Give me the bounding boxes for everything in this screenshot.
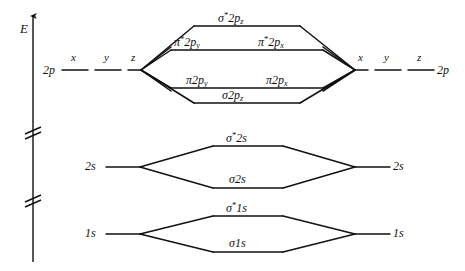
shell-text: 1s (235, 236, 246, 250)
shell-text: 2p (184, 35, 196, 49)
ao-2py-left-label: y (104, 52, 109, 63)
ao-2pz-right-label: z (417, 52, 421, 63)
mo-label-pi-star-2py: π*2py (174, 35, 200, 50)
mo-label-sigma-1s: σ1s (229, 237, 246, 249)
mo-label-sigma-2pz: σ2pz (222, 89, 243, 103)
ao-2p-right-label: 2p (437, 64, 449, 76)
shell-text: 2p (268, 35, 280, 49)
sub-glyph: z (240, 94, 243, 103)
correlation-1s (140, 216, 355, 252)
ao-2pz-left-label: z (131, 52, 135, 63)
mo-label-sigma-star-2pz: σ*2pz (218, 11, 243, 26)
correlation-2s (140, 146, 355, 188)
sub-glyph: x (280, 41, 284, 50)
shell-text: 2p (228, 88, 240, 102)
ao-2s-right-label: 2s (393, 160, 404, 172)
correlation-2p-right (300, 26, 355, 103)
sub-glyph: y (204, 79, 208, 88)
ao-2px-left-label: x (71, 52, 76, 63)
mo-label-pi-star-2px: π*2px (258, 35, 284, 50)
mo-label-sigma-star-2s: σ*2s (226, 131, 247, 144)
ao-2s-left-label: 2s (85, 160, 96, 172)
shell-text: 2s (235, 172, 246, 186)
shell-text: 2p (192, 73, 204, 87)
sub-glyph: x (284, 79, 288, 88)
ao-2p-left-label: 2p (43, 64, 55, 76)
mo-label-pi-2px: π2px (266, 74, 288, 88)
shell-text: 2p (272, 73, 284, 87)
ao-1s-left-label: 1s (85, 227, 96, 239)
mo-label-pi-2py: π2py (186, 74, 208, 88)
sub-glyph: z (240, 17, 243, 26)
mo-label-sigma-2s: σ2s (229, 173, 246, 185)
ao-1s-right-label: 1s (393, 227, 404, 239)
shell-text: 2p (228, 11, 240, 25)
ao-2py-right-label: y (384, 52, 389, 63)
ao-2px-right-label: x (358, 52, 363, 63)
shell-text: 1s (236, 201, 247, 215)
mo-label-sigma-star-1s: σ*1s (226, 201, 247, 214)
mo-diagram: E 2p x y z x y z 2p 2s 2s 1s 1s σ*2pz π*… (0, 0, 465, 271)
shell-text: 2s (236, 131, 247, 145)
sub-glyph: y (196, 41, 200, 50)
energy-axis-label: E (20, 22, 28, 35)
